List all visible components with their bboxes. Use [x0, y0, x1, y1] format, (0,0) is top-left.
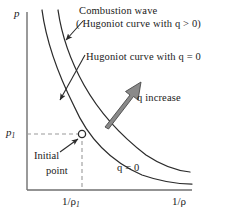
y-tick-subscript: 1: [12, 131, 16, 140]
initial-point-pointer-arrow: [60, 139, 78, 152]
diagram-canvas: [0, 0, 231, 218]
annotation-combustion-wave-line2: ( Hugoniot curve with q > 0): [76, 19, 201, 30]
annotation-initial-point-line1: Initial: [34, 151, 59, 162]
annotation-hugoniot-q0: Hugoniot curve with q = 0: [86, 52, 201, 63]
curve-combustion-wave: [58, 10, 190, 172]
x-tick-symbol: 1/ρ: [62, 195, 76, 207]
y-axis-tick-label: p1: [6, 127, 15, 139]
hugoniot-diagram: p p1 1/ρ1 1/ρ Combustion wave ( Hugoniot…: [0, 0, 231, 218]
annotation-initial-point-line2: point: [46, 166, 68, 177]
annotation-q-zero-curve: q = 0: [117, 163, 139, 174]
x-axis-tick-label: 1/ρ1: [62, 196, 80, 208]
y-axis-label: p: [14, 8, 20, 19]
initial-point-marker: [78, 130, 85, 137]
x-axis-label: 1/ρ: [172, 196, 186, 207]
annotation-q-increase: q increase: [137, 93, 181, 104]
q-increase-arrow: [105, 82, 141, 129]
x-tick-subscript: 1: [76, 200, 80, 209]
annotation-combustion-wave-line1: Combustion wave: [79, 6, 157, 17]
